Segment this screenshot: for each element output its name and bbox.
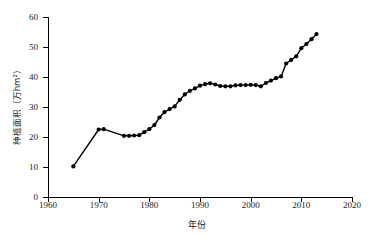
- data-point-marker: [208, 81, 212, 85]
- data-point-marker: [162, 110, 166, 114]
- data-point-marker: [132, 133, 136, 137]
- data-point-marker: [294, 54, 298, 58]
- data-point-marker: [198, 84, 202, 88]
- x-tick-label: 1990: [177, 201, 223, 210]
- data-point-marker: [102, 127, 106, 131]
- data-point-marker: [203, 82, 207, 86]
- data-point-marker: [223, 84, 227, 88]
- data-point-marker: [157, 115, 161, 119]
- data-point-marker: [304, 42, 308, 46]
- data-point-marker: [173, 104, 177, 108]
- y-tick-label: 20: [0, 133, 38, 142]
- data-point-marker: [244, 83, 248, 87]
- data-point-marker: [168, 107, 172, 111]
- x-tick-label: 2010: [278, 201, 324, 210]
- data-series-planting-area: [48, 17, 352, 197]
- data-point-marker: [183, 92, 187, 96]
- x-tick-label: 1960: [25, 201, 71, 210]
- data-point-marker: [137, 133, 141, 137]
- data-point-marker: [259, 84, 263, 88]
- data-point-marker: [122, 134, 126, 138]
- data-point-marker: [178, 98, 182, 102]
- data-point-marker: [284, 61, 288, 65]
- data-point-marker: [142, 130, 146, 134]
- data-point-marker: [97, 127, 101, 131]
- y-tick-label: 30: [0, 103, 38, 112]
- data-point-marker: [233, 83, 237, 87]
- data-point-marker: [218, 84, 222, 88]
- data-point-marker: [127, 134, 131, 138]
- data-point-marker: [309, 37, 313, 41]
- series-line: [73, 34, 316, 166]
- data-point-marker: [274, 76, 278, 80]
- data-point-marker: [238, 83, 242, 87]
- data-point-marker: [249, 83, 253, 87]
- data-point-marker: [264, 81, 268, 85]
- data-point-marker: [147, 127, 151, 131]
- x-tick-label: 1970: [76, 201, 122, 210]
- x-tick-label: 2020: [329, 201, 375, 210]
- y-tick-label: 50: [0, 43, 38, 52]
- data-point-marker: [188, 89, 192, 93]
- data-point-marker: [193, 86, 197, 90]
- plot-area: [48, 17, 352, 197]
- x-tick-label: 2000: [228, 201, 274, 210]
- chart-figure: 种植面积（万hm²） 0102030405060 196019701980199…: [0, 0, 379, 243]
- data-point-marker: [279, 74, 283, 78]
- data-point-marker: [289, 58, 293, 62]
- y-tick-label: 40: [0, 73, 38, 82]
- data-point-marker: [299, 46, 303, 50]
- data-point-marker: [228, 84, 232, 88]
- x-axis-title-text: 年份: [174, 220, 206, 230]
- data-point-marker: [269, 79, 273, 83]
- data-point-marker: [254, 83, 258, 87]
- y-tick-label: 60: [0, 13, 38, 22]
- x-tick-label: 1980: [126, 201, 172, 210]
- data-point-marker: [213, 82, 217, 86]
- y-tick-label: 10: [0, 163, 38, 172]
- data-point-marker: [152, 123, 156, 127]
- x-axis-title: 年份: [0, 218, 379, 231]
- data-point-marker: [71, 164, 75, 168]
- data-point-marker: [314, 32, 318, 36]
